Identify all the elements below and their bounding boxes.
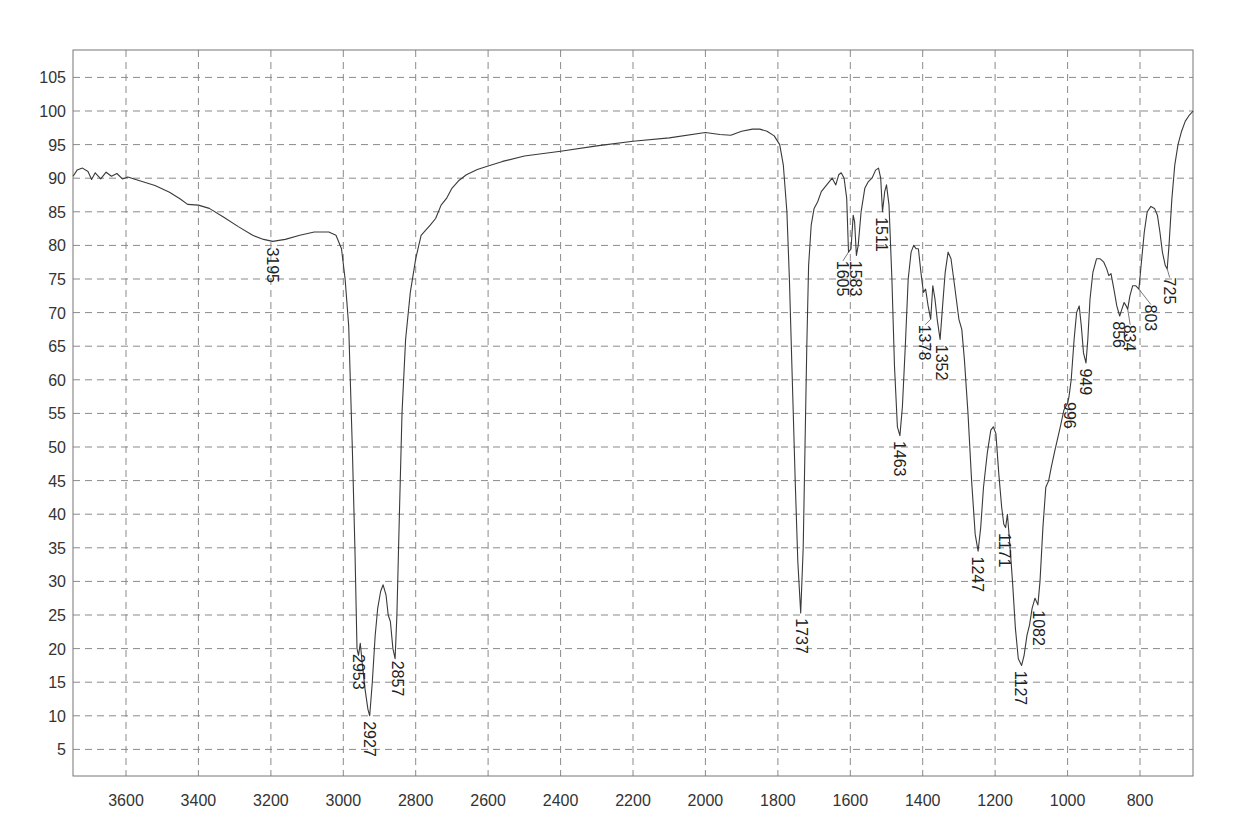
peak-label: 1171 (996, 533, 1013, 568)
peak-label: 1247 (969, 557, 986, 593)
y-tick-label: 40 (48, 506, 66, 523)
x-tick-label: 3600 (108, 792, 144, 809)
y-axis-ticks: 5101520253035404550556065707580859095100… (39, 69, 66, 758)
y-tick-label: 35 (48, 540, 66, 557)
x-tick-label: 3400 (181, 792, 217, 809)
peak-label: 803 (1142, 305, 1159, 332)
x-tick-label: 3200 (253, 792, 289, 809)
x-tick-label: 800 (1127, 792, 1154, 809)
y-tick-label: 105 (39, 69, 66, 86)
y-tick-label: 70 (48, 305, 66, 322)
peak-leader-line (1167, 269, 1170, 278)
x-tick-label: 3000 (326, 792, 362, 809)
peak-label: 2953 (350, 654, 367, 690)
peak-label: 1583 (847, 261, 864, 297)
y-tick-label: 45 (48, 473, 66, 490)
peak-leader-line (843, 252, 849, 261)
peak-label: 834 (1121, 325, 1138, 352)
x-tick-label: 2800 (398, 792, 434, 809)
peak-leader-line (1139, 289, 1151, 304)
y-tick-label: 95 (48, 137, 66, 154)
x-tick-label: 2400 (543, 792, 579, 809)
y-tick-label: 20 (48, 641, 66, 658)
peak-label: 1378 (916, 325, 933, 361)
x-tick-label: 1200 (977, 792, 1013, 809)
y-tick-label: 55 (48, 405, 66, 422)
y-tick-label: 30 (48, 573, 66, 590)
x-tick-label: 1000 (1050, 792, 1086, 809)
peak-label: 3195 (264, 247, 281, 283)
grid-lines (73, 50, 1193, 776)
y-tick-label: 25 (48, 607, 66, 624)
x-tick-label: 2000 (688, 792, 724, 809)
peak-label: 1352 (933, 345, 950, 381)
x-tick-label: 2600 (470, 792, 506, 809)
peak-label: 725 (1161, 278, 1178, 305)
y-tick-label: 60 (48, 372, 66, 389)
y-tick-label: 50 (48, 439, 66, 456)
ir-spectrum-chart: 5101520253035404550556065707580859095100… (0, 0, 1235, 840)
peak-labels: 3195295329272857173716051583151114631378… (264, 217, 1178, 757)
peak-label: 1737 (793, 618, 810, 654)
peak-label: 996 (1061, 402, 1078, 429)
x-tick-label: 1600 (833, 792, 869, 809)
y-tick-label: 75 (48, 271, 66, 288)
peak-label: 1127 (1012, 671, 1029, 706)
peak-label: 949 (1077, 368, 1094, 395)
y-tick-label: 10 (48, 708, 66, 725)
y-tick-label: 100 (39, 103, 66, 120)
y-tick-label: 65 (48, 338, 66, 355)
y-tick-label: 80 (48, 237, 66, 254)
peak-label: 2927 (361, 721, 378, 757)
peak-label: 2857 (389, 661, 406, 697)
peak-label: 1082 (1030, 610, 1047, 646)
x-tick-label: 2200 (615, 792, 651, 809)
x-tick-label: 1400 (905, 792, 941, 809)
y-tick-label: 90 (48, 170, 66, 187)
peak-label: 1511 (873, 217, 890, 252)
y-tick-label: 15 (48, 674, 66, 691)
y-tick-label: 85 (48, 204, 66, 221)
peak-label: 1463 (891, 441, 908, 477)
x-tick-label: 1800 (760, 792, 796, 809)
y-tick-label: 5 (57, 741, 66, 758)
x-axis-ticks: 3600340032003000280026002400220020001800… (108, 792, 1153, 809)
